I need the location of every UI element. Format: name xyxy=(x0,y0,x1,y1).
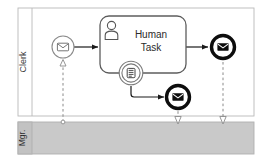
end-message-event-top[interactable] xyxy=(212,36,235,59)
form-icon xyxy=(127,68,135,77)
message-flow-source-marker xyxy=(61,120,65,124)
lane-clerk-label: Clerk xyxy=(18,51,28,73)
lane-mgr-label: Mgr. xyxy=(17,130,27,147)
envelope-icon xyxy=(57,43,68,51)
boundary-form-event[interactable] xyxy=(119,61,143,85)
diagram-canvas: Clerk Mgr. xyxy=(0,0,260,161)
bpmn-diagram: Clerk Mgr. xyxy=(0,0,260,161)
envelope-filled-icon xyxy=(217,43,228,50)
start-message-event[interactable] xyxy=(52,36,74,58)
lane-mgr[interactable]: Mgr. xyxy=(17,122,254,154)
human-task-label-line-2: Task xyxy=(141,42,163,53)
lane-mgr-body xyxy=(18,122,254,154)
end-message-event-bottom[interactable] xyxy=(167,86,190,109)
human-task-label-line-1: Human xyxy=(135,29,167,40)
human-task[interactable]: Human Task xyxy=(100,16,186,73)
envelope-filled-icon xyxy=(172,93,183,100)
